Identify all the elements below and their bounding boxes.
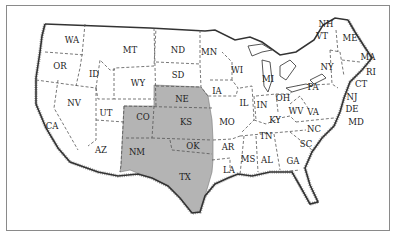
state-label-nd: ND xyxy=(171,45,185,55)
state-label-nm: NM xyxy=(129,147,145,157)
state-label-mo: MO xyxy=(219,117,235,127)
us-map: WAORIDMTWYNDSDMNNVUTCAAZCONMNEKSOKTXIAMO… xyxy=(0,0,395,237)
state-label-mn: MN xyxy=(201,47,218,57)
state-label-or: OR xyxy=(53,61,67,71)
state-label-nj: NJ xyxy=(347,92,358,102)
state-label-ok: OK xyxy=(186,141,200,151)
state-label-nc: NC xyxy=(307,124,321,134)
state-label-de: DE xyxy=(345,104,358,114)
state-label-va: VA xyxy=(306,107,320,117)
state-label-id: ID xyxy=(89,69,99,79)
state-label-mi: MI xyxy=(262,74,274,84)
state-label-co: CO xyxy=(136,112,150,122)
state-label-wy: WY xyxy=(131,78,146,88)
state-label-wv: WV xyxy=(289,106,305,116)
state-label-md: MD xyxy=(348,117,364,127)
state-label-mt: MT xyxy=(123,45,138,55)
state-label-il: IL xyxy=(239,98,248,108)
state-label-tn: TN xyxy=(259,131,273,141)
state-label-la: LA xyxy=(223,165,236,175)
state-label-tx: TX xyxy=(179,172,192,182)
state-label-nh: NH xyxy=(319,19,334,29)
state-label-me: ME xyxy=(343,33,358,43)
state-label-ia: IA xyxy=(212,86,222,96)
state-label-wi: WI xyxy=(231,65,243,75)
state-label-ct: CT xyxy=(355,79,368,89)
state-label-ar: AR xyxy=(221,142,235,152)
state-label-ny: NY xyxy=(320,62,333,72)
state-label-ky: KY xyxy=(269,115,281,125)
state-label-in: IN xyxy=(257,100,268,110)
state-label-pa: PA xyxy=(307,82,319,92)
state-label-wa: WA xyxy=(65,35,80,45)
state-label-sd: SD xyxy=(172,70,185,80)
state-label-ri: RI xyxy=(366,67,376,77)
state-label-nv: NV xyxy=(67,98,81,108)
state-label-az: AZ xyxy=(94,145,107,155)
state-label-al: AL xyxy=(260,155,273,165)
state-label-ga: GA xyxy=(287,156,301,166)
state-label-ut: UT xyxy=(100,108,113,118)
state-label-vt: VT xyxy=(315,31,328,41)
state-label-ma: MA xyxy=(361,52,377,62)
state-label-ne: NE xyxy=(175,94,189,104)
state-label-oh: OH xyxy=(276,93,290,103)
state-label-ks: KS xyxy=(180,117,192,127)
state-label-ms: MS xyxy=(241,154,256,164)
state-label-ca: CA xyxy=(46,121,60,131)
state-label-sc: SC xyxy=(300,139,312,149)
